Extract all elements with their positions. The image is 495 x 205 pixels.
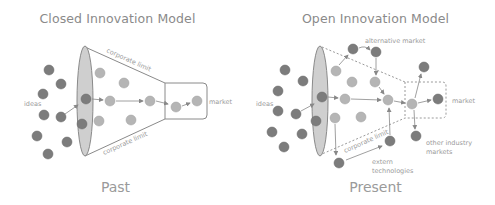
ideas-label: ideas — [256, 100, 274, 108]
alternative-market-label: alternative market — [365, 37, 426, 45]
other-industry-markets-label-1: other industry — [426, 139, 472, 147]
open-innovation-panel: Open Innovation Model alternative market… — [248, 0, 495, 205]
idea-circles — [32, 65, 72, 159]
market-label: market — [209, 98, 233, 106]
closed-innovation-panel: Closed Innovation Model corporate limit … — [0, 0, 247, 205]
corporate-limit-label: corporate limit — [343, 128, 390, 155]
other-industry-markets-label-2: markets — [426, 148, 453, 156]
idea-circles — [267, 65, 308, 152]
present-caption: Present — [252, 179, 495, 195]
extern-technologies-label-2: technologies — [372, 167, 414, 175]
extern-technologies-label-1: extern — [372, 158, 393, 166]
market-label: market — [452, 97, 476, 105]
closed-funnel-diagram: corporate limit corporate limit ideas ma… — [0, 0, 247, 205]
ideas-label: ideas — [24, 100, 42, 108]
past-caption: Past — [0, 179, 239, 195]
open-funnel-diagram: alternative market ideas market corporat… — [248, 0, 495, 205]
